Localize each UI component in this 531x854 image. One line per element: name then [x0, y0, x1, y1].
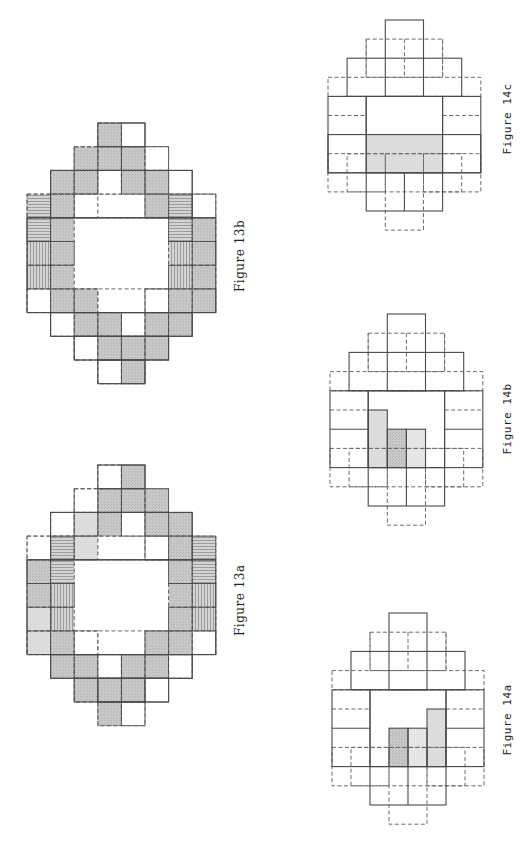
- grid-cell-shade: [169, 631, 193, 655]
- grid-cell-white: [98, 465, 122, 489]
- grid-cell-shade: [51, 631, 75, 655]
- grid-cell-hlines: [27, 218, 51, 242]
- grid-cell-white: [121, 512, 145, 536]
- figure-14c: [328, 20, 481, 230]
- grid-cell-shade: [98, 313, 122, 337]
- grid-cell-light: [27, 631, 51, 655]
- grid-cell-vlines: [169, 242, 193, 266]
- grid-cell-vlines: [51, 607, 75, 631]
- shaded-region: [427, 709, 446, 767]
- grid-cell-shade: [192, 265, 216, 289]
- grid-cell-shade: [121, 336, 145, 360]
- grid-cell-shade: [51, 170, 75, 194]
- grid-cell-vlines: [192, 607, 216, 631]
- grid-cell-white: [98, 655, 122, 679]
- grid-cell-shade: [27, 584, 51, 608]
- grid-cell-white: [51, 512, 75, 536]
- figure-14a: [332, 613, 484, 824]
- grid-cell-vlines: [51, 584, 75, 608]
- grid-cell-shade: [169, 607, 193, 631]
- figure-14b-caption: Figure 14b: [501, 385, 514, 455]
- grid-cell-hlines: [51, 560, 75, 584]
- grid-cell-white: [121, 702, 145, 726]
- grid-cell-shade: [74, 655, 98, 679]
- grid-cell-white: [169, 655, 193, 679]
- grid-cell-shade: [192, 289, 216, 313]
- figure-13b: [27, 123, 216, 384]
- grid-cell-white: [74, 489, 98, 513]
- figure-13a: [27, 465, 216, 726]
- grid-cell-shade: [192, 242, 216, 266]
- grid-cell-shade: [51, 289, 75, 313]
- grid-cell-white: [74, 631, 98, 655]
- grid-cell-light: [74, 536, 98, 560]
- grid-cell-light: [27, 607, 51, 631]
- grid-cell-white: [98, 360, 122, 384]
- figure-14b: [330, 314, 483, 525]
- grid-cell-shade: [98, 512, 122, 536]
- grid-cell-white: [98, 170, 122, 194]
- grid-cell-shade: [121, 360, 145, 384]
- grid-cell-shade: [169, 536, 193, 560]
- grid-cell-shade: [51, 265, 75, 289]
- shaded-region: [368, 410, 387, 468]
- grid-cell-shade: [98, 678, 122, 702]
- grid-cell-shade: [121, 170, 145, 194]
- grid-cell-shade: [145, 194, 169, 218]
- grid-cell-white: [169, 170, 193, 194]
- grid-cell-shade: [27, 560, 51, 584]
- grid-cell-shade: [74, 147, 98, 171]
- grid-cell-hlines: [27, 194, 51, 218]
- grid-cell-hlines: [169, 194, 193, 218]
- grid-cell-shade: [74, 170, 98, 194]
- grid-cell-shade: [74, 289, 98, 313]
- dashed-tile-outline: [330, 372, 483, 391]
- grid-cell-shade: [98, 489, 122, 513]
- grid-cell-white: [27, 536, 51, 560]
- grid-cell-shade: [51, 242, 75, 266]
- grid-cell-hlines: [169, 218, 193, 242]
- grid-cell-white: [51, 313, 75, 337]
- grid-cell-shade: [145, 313, 169, 337]
- figure-14c-caption: Figure 14c: [501, 85, 514, 155]
- grid-cell-shade: [121, 678, 145, 702]
- grid-cell-white: [192, 631, 216, 655]
- grid-cell-shade: [51, 194, 75, 218]
- figure-13a-caption: Figure 13a: [233, 566, 247, 636]
- grid-cell-shade: [98, 147, 122, 171]
- grid-cell-white: [145, 289, 169, 313]
- grid-cell-shade: [169, 512, 193, 536]
- grid-cell-hlines: [192, 560, 216, 584]
- grid-cell-shade: [74, 678, 98, 702]
- grid-cell-shade: [121, 465, 145, 489]
- grid-cell-hlines: [51, 536, 75, 560]
- grid-cell-shade: [98, 123, 122, 147]
- grid-cell-shade: [145, 512, 169, 536]
- grid-cell-shade: [145, 170, 169, 194]
- grid-cell-white: [145, 678, 169, 702]
- figure-page: [0, 0, 531, 854]
- grid-cell-hlines: [192, 536, 216, 560]
- grid-cell-shade: [169, 289, 193, 313]
- grid-cell-shade: [121, 655, 145, 679]
- grid-cell-vlines: [27, 265, 51, 289]
- dashed-tile-outline: [332, 671, 484, 690]
- grid-cell-white: [192, 194, 216, 218]
- grid-cell-vlines: [27, 242, 51, 266]
- figure-13b-caption: Figure 13b: [233, 222, 247, 292]
- grid-cell-shade: [145, 489, 169, 513]
- grid-cell-white: [121, 313, 145, 337]
- grid-cell-shade: [169, 560, 193, 584]
- figure-14a-caption: Figure 14a: [501, 686, 514, 756]
- grid-cell-shade: [121, 147, 145, 171]
- grid-cell-shade: [98, 336, 122, 360]
- grid-cell-shade: [121, 489, 145, 513]
- grid-cell-shade: [145, 336, 169, 360]
- grid-cell-shade: [192, 218, 216, 242]
- grid-cell-white: [121, 123, 145, 147]
- grid-cell-shade: [169, 584, 193, 608]
- grid-cell-vlines: [192, 584, 216, 608]
- dashed-tile-outline: [328, 77, 481, 96]
- grid-cell-shade: [169, 313, 193, 337]
- grid-cell-shade: [74, 313, 98, 337]
